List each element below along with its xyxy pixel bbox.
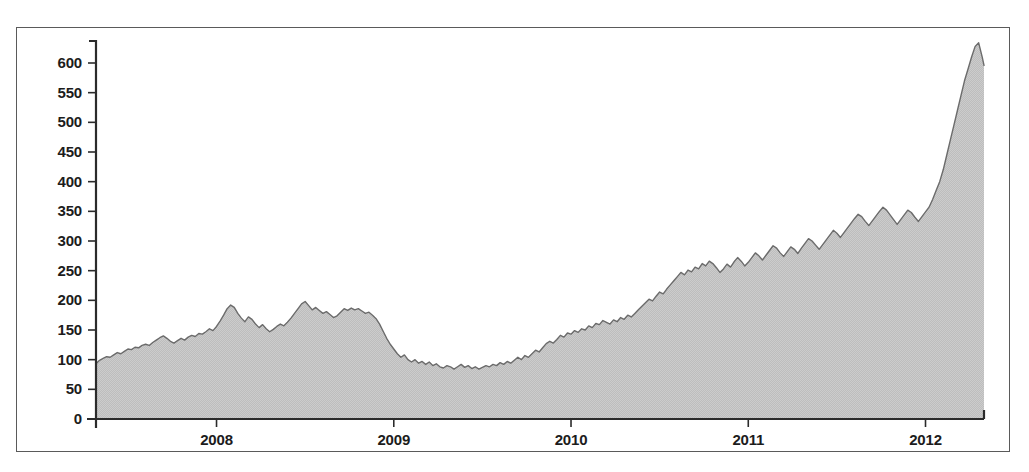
- x-axis-ticks: [217, 419, 926, 427]
- y-tick-label: 50: [22, 380, 82, 397]
- y-tick-label: 150: [22, 321, 82, 338]
- y-tick-label: 550: [22, 84, 82, 101]
- y-tick-label: 0: [22, 410, 82, 427]
- x-tick-label: 2012: [886, 431, 966, 448]
- y-axis-line: [89, 41, 96, 428]
- y-tick-label: 450: [22, 143, 82, 160]
- y-axis-ticks: [88, 63, 96, 419]
- y-tick-label: 400: [22, 173, 82, 190]
- y-tick-label: 250: [22, 262, 82, 279]
- x-tick-label: 2010: [531, 431, 611, 448]
- x-tick-label: 2011: [708, 431, 788, 448]
- area-chart-plot: [17, 28, 1009, 451]
- x-tick-label: 2008: [177, 431, 257, 448]
- plot-group: [96, 43, 984, 419]
- y-tick-label: 300: [22, 232, 82, 249]
- y-tick-label: 600: [22, 54, 82, 71]
- series-area-fill: [96, 43, 984, 419]
- y-tick-label: 500: [22, 113, 82, 130]
- chart-frame: 050100150200250300350400450500550600 200…: [16, 27, 1010, 452]
- y-tick-label: 100: [22, 351, 82, 368]
- chart-figure: 050100150200250300350400450500550600 200…: [0, 0, 1029, 472]
- x-tick-label: 2009: [354, 431, 434, 448]
- y-tick-label: 350: [22, 202, 82, 219]
- y-tick-label: 200: [22, 291, 82, 308]
